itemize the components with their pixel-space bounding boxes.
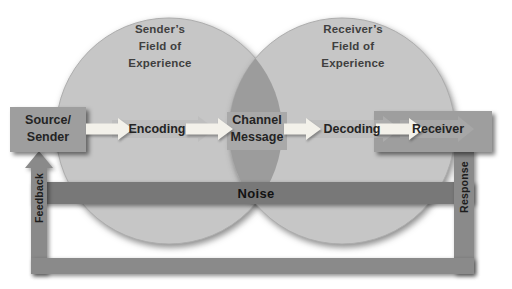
feedback-label: Feedback (33, 172, 45, 222)
noise-label: Noise (216, 186, 296, 201)
source-sender-label: Source/ Sender (10, 112, 86, 146)
communication-process-diagram: Sender’s Field of Experience Receiver’s … (0, 0, 512, 289)
channel-message-label: Channel Message (226, 112, 288, 146)
receiver-field-label: Receiver’s Field of Experience (288, 21, 418, 72)
feedback-label-wrap: Feedback (28, 150, 50, 245)
decoding-label: Decoding (305, 121, 399, 138)
feedback-loop-bottom-bar (31, 258, 474, 274)
response-label: Response (458, 161, 470, 213)
receiver-label: Receiver (395, 121, 481, 138)
response-label-wrap: Response (453, 142, 475, 232)
encoding-label: Encoding (110, 121, 204, 138)
sender-field-label: Sender’s Field of Experience (95, 21, 225, 72)
